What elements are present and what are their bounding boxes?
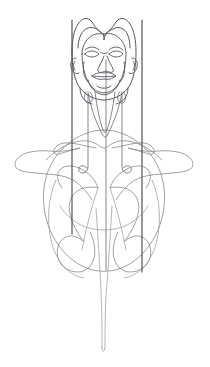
inner-hook-left — [79, 94, 88, 173]
chest-sweep — [46, 141, 162, 160]
tail-group — [96, 206, 112, 351]
mouth-line — [93, 76, 115, 77]
left-wing — [15, 143, 96, 200]
face-contour — [82, 34, 126, 93]
line-drawing: Continuous line drawing of a stylized hu… — [0, 0, 210, 367]
right-ear — [129, 58, 137, 74]
right-eye — [109, 51, 123, 57]
right-brow — [109, 47, 123, 50]
head-outline — [72, 18, 136, 100]
right-wing — [112, 143, 193, 200]
left-brow — [85, 47, 99, 50]
chin-crease — [97, 86, 111, 88]
nose-bridge — [100, 52, 108, 54]
nose — [98, 56, 113, 72]
wings-group — [15, 143, 193, 200]
artwork-canvas: Continuous line drawing of a stylized hu… — [0, 0, 210, 367]
tail — [96, 208, 102, 348]
left-leg-outer — [49, 180, 84, 278]
left-ear-inner — [74, 61, 76, 70]
right-leg — [110, 166, 151, 272]
left-leg — [57, 166, 98, 272]
legs-group — [49, 166, 160, 278]
left-eye — [85, 51, 99, 57]
right-ear-inner — [133, 61, 135, 70]
tail-tip — [102, 348, 105, 351]
belly-arc — [60, 206, 148, 230]
hairline — [78, 27, 130, 48]
head-group — [71, 18, 138, 104]
